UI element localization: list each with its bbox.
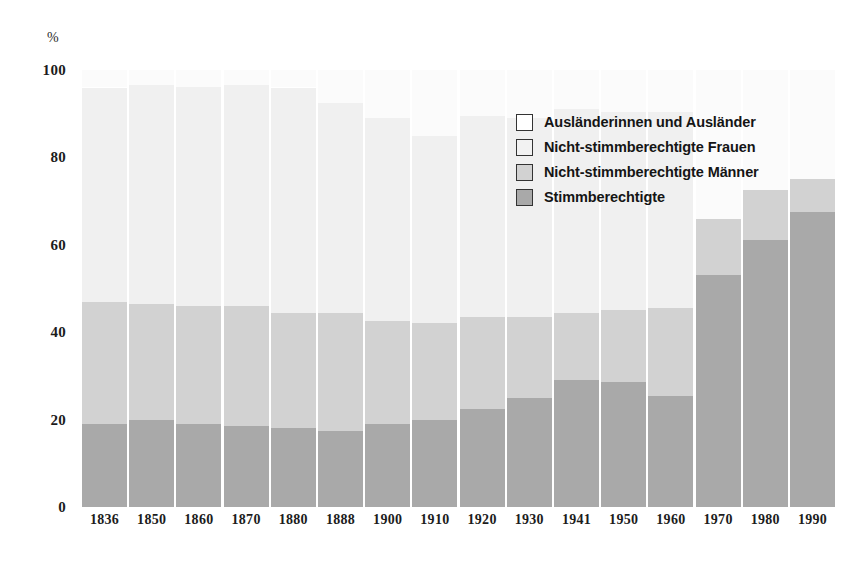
legend-swatch-icon [516, 114, 533, 131]
segment-stimmberechtigte [648, 396, 693, 507]
segment-nicht-stimmberechtigte-maenner [460, 317, 505, 409]
y-axis-tick-label: 100 [43, 62, 66, 79]
x-axis-tick-label: 1941 [554, 512, 599, 528]
segment-nicht-stimmberechtigte-maenner [507, 317, 552, 398]
segment-stimmberechtigte [129, 420, 174, 507]
x-axis-tick-label: 1950 [601, 512, 646, 528]
legend-swatch-icon [516, 189, 533, 206]
segment-nicht-stimmberechtigte-maenner [365, 321, 410, 424]
y-axis-unit-label: % [47, 30, 59, 46]
segment-nicht-stimmberechtigte-maenner [696, 219, 741, 276]
x-axis-tick-label: 1850 [129, 512, 174, 528]
legend-item: Ausländerinnen und Ausländer [516, 110, 759, 134]
segment-nicht-stimmberechtigte-maenner [176, 306, 221, 424]
segment-auslaenderinnen-und-auslaender [648, 70, 693, 112]
y-axis-tick-label: 0 [58, 499, 66, 516]
segment-auslaenderinnen-und-auslaender [129, 70, 174, 85]
bar-1880 [271, 70, 316, 507]
legend-item-label: Nicht-stimmberechtigte Männer [544, 164, 759, 180]
x-axis-tick-label: 1880 [271, 512, 316, 528]
segment-nicht-stimmberechtigte-maenner [224, 306, 269, 426]
segment-stimmberechtigte [460, 409, 505, 507]
legend-item: Nicht-stimmberechtigte Männer [516, 160, 759, 184]
segment-stimmberechtigte [82, 424, 127, 507]
segment-auslaenderinnen-und-auslaender [790, 70, 835, 179]
bar-1900 [365, 70, 410, 507]
segment-stimmberechtigte [365, 424, 410, 507]
segment-nicht-stimmberechtigte-maenner [412, 323, 457, 419]
bar-1888 [318, 70, 363, 507]
segment-auslaenderinnen-und-auslaender [412, 70, 457, 136]
segment-auslaenderinnen-und-auslaender [224, 70, 269, 85]
y-axis-tick-label: 80 [50, 149, 66, 166]
legend-item-label: Nicht-stimmberechtigte Frauen [544, 139, 755, 155]
segment-nicht-stimmberechtigte-frauen [224, 85, 269, 306]
y-axis-tick-label: 40 [50, 324, 66, 341]
segment-auslaenderinnen-und-auslaender [460, 70, 505, 116]
segment-auslaenderinnen-und-auslaender [271, 70, 316, 87]
segment-stimmberechtigte [318, 431, 363, 507]
segment-nicht-stimmberechtigte-maenner [318, 313, 363, 431]
bar-1850 [129, 70, 174, 507]
bar-1920 [460, 70, 505, 507]
y-axis-tick-label: 20 [50, 411, 66, 428]
segment-auslaenderinnen-und-auslaender [601, 70, 646, 112]
legend-item: Nicht-stimmberechtigte Frauen [516, 135, 759, 159]
segment-nicht-stimmberechtigte-maenner [601, 310, 646, 382]
bar-1860 [176, 70, 221, 507]
x-axis-tick-label: 1930 [507, 512, 552, 528]
bar-1990 [790, 70, 835, 507]
bar-1870 [224, 70, 269, 507]
segment-nicht-stimmberechtigte-maenner [129, 304, 174, 420]
segment-stimmberechtigte [176, 424, 221, 507]
x-axis-tick-label: 1888 [318, 512, 363, 528]
x-axis-tick-label: 1870 [224, 512, 269, 528]
segment-nicht-stimmberechtigte-frauen [318, 103, 363, 313]
segment-auslaenderinnen-und-auslaender [318, 70, 363, 103]
segment-nicht-stimmberechtigte-maenner [82, 302, 127, 424]
segment-stimmberechtigte [743, 240, 788, 507]
segment-stimmberechtigte [412, 420, 457, 507]
legend-item-label: Ausländerinnen und Ausländer [544, 114, 756, 130]
stacked-bar-chart: % 100806040200 1836185018601870188018881… [0, 0, 866, 570]
bar-1836 [82, 70, 127, 507]
bar-1910 [412, 70, 457, 507]
y-axis-tick-label: 60 [50, 236, 66, 253]
x-axis-tick-label: 1970 [696, 512, 741, 528]
segment-nicht-stimmberechtigte-frauen [82, 88, 127, 302]
segment-stimmberechtigte [696, 275, 741, 507]
x-axis-tick-label: 1900 [365, 512, 410, 528]
y-axis: 100806040200 [0, 70, 78, 507]
segment-nicht-stimmberechtigte-maenner [271, 313, 316, 429]
x-axis-tick-label: 1836 [82, 512, 127, 528]
x-axis-tick-label: 1860 [176, 512, 221, 528]
segment-stimmberechtigte [601, 382, 646, 507]
segment-stimmberechtigte [271, 428, 316, 507]
segment-auslaenderinnen-und-auslaender [365, 70, 410, 118]
chart-legend: Ausländerinnen und AusländerNicht-stimmb… [516, 110, 759, 210]
x-axis-tick-label: 1990 [790, 512, 835, 528]
x-axis-tick-label: 1960 [648, 512, 693, 528]
segment-stimmberechtigte [507, 398, 552, 507]
segment-nicht-stimmberechtigte-frauen [129, 85, 174, 304]
x-axis-tick-label: 1980 [743, 512, 788, 528]
segment-stimmberechtigte [790, 212, 835, 507]
legend-item: Stimmberechtigte [516, 185, 759, 209]
legend-swatch-icon [516, 139, 533, 156]
segment-stimmberechtigte [224, 426, 269, 507]
segment-auslaenderinnen-und-auslaender [554, 70, 599, 109]
segment-nicht-stimmberechtigte-maenner [554, 313, 599, 381]
x-axis-tick-label: 1920 [460, 512, 505, 528]
segment-nicht-stimmberechtigte-maenner [790, 179, 835, 212]
segment-nicht-stimmberechtigte-maenner [648, 308, 693, 395]
segment-nicht-stimmberechtigte-frauen [412, 136, 457, 324]
legend-item-label: Stimmberechtigte [544, 189, 665, 205]
x-axis: 1836185018601870188018881900191019201930… [80, 512, 836, 542]
legend-swatch-icon [516, 164, 533, 181]
segment-nicht-stimmberechtigte-frauen [176, 87, 221, 306]
segment-auslaenderinnen-und-auslaender [82, 70, 127, 87]
x-axis-tick-label: 1910 [412, 512, 457, 528]
segment-nicht-stimmberechtigte-frauen [271, 88, 316, 313]
segment-stimmberechtigte [554, 380, 599, 507]
segment-nicht-stimmberechtigte-frauen [460, 116, 505, 317]
